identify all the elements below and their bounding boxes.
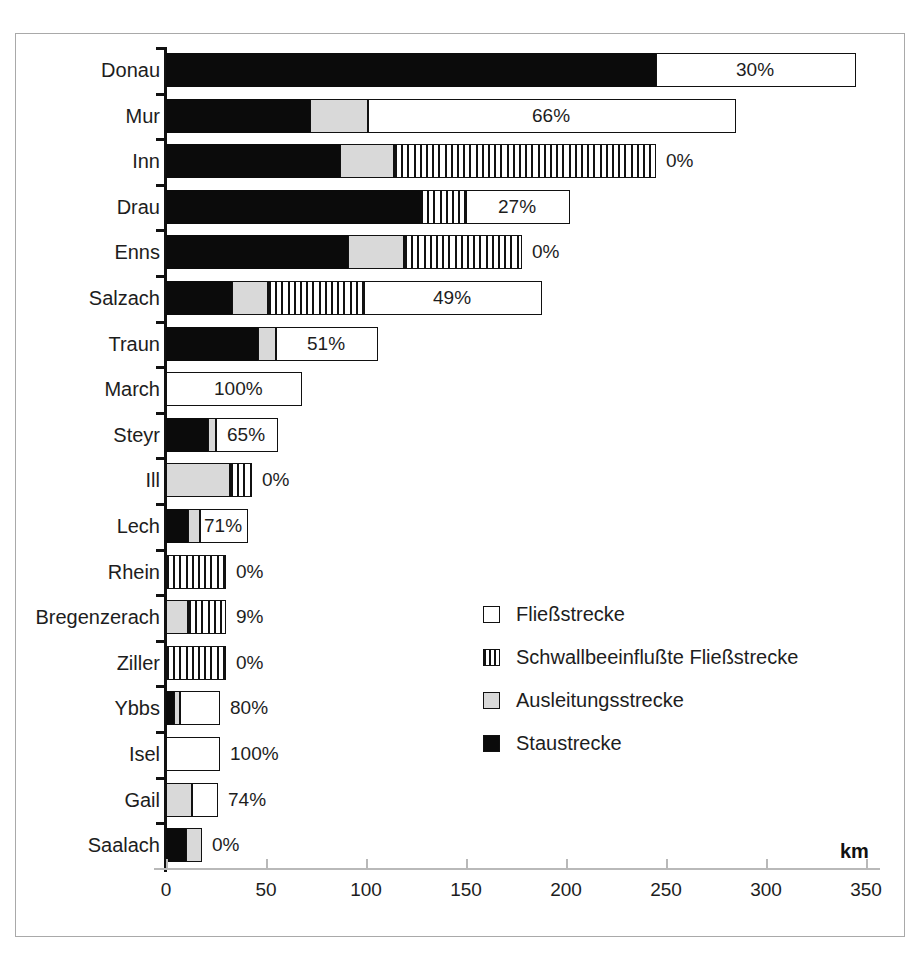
axis-tick-label: Bregenzerach bbox=[0, 607, 160, 627]
segment-staustrecke bbox=[166, 418, 208, 452]
legend-item-schwall: Schwallbeeinflußte Fließstrecke bbox=[483, 647, 798, 667]
axis-tick-label: Saalach bbox=[0, 835, 160, 855]
y-axis-tick bbox=[156, 640, 165, 643]
hatch-pattern bbox=[167, 556, 225, 588]
segment-fliessstrecke bbox=[166, 737, 220, 771]
grey-square-icon bbox=[483, 692, 500, 709]
y-axis-tick bbox=[156, 229, 165, 232]
y-axis-label-gail: Gail bbox=[0, 790, 160, 810]
x-axis-tick bbox=[766, 859, 768, 868]
bar-value-label: 74% bbox=[228, 790, 266, 809]
y-axis-label-saalach: Saalach bbox=[0, 835, 160, 855]
y-axis-label-salzach: Salzach bbox=[0, 288, 160, 308]
hatch-pattern bbox=[189, 601, 225, 633]
segment-ausleitungsstrecke bbox=[258, 327, 276, 361]
legend-label: Staustrecke bbox=[516, 733, 622, 753]
axis-tick-label: Inn bbox=[0, 151, 160, 171]
segment-staustrecke bbox=[166, 327, 258, 361]
legend-item-fliess: Fließstrecke bbox=[483, 604, 625, 624]
y-axis-tick bbox=[156, 47, 165, 50]
y-axis-label-rhein: Rhein bbox=[0, 562, 160, 582]
bar-row bbox=[166, 828, 202, 862]
bar-row bbox=[166, 691, 220, 725]
bar-row bbox=[166, 281, 542, 315]
x-axis-tick-label: 250 bbox=[626, 880, 706, 899]
y-axis-label-mur: Mur bbox=[0, 106, 160, 126]
legend-label: Fließstrecke bbox=[516, 604, 625, 624]
x-axis-tick bbox=[666, 859, 668, 868]
bar-value-label: 49% bbox=[433, 288, 471, 307]
y-axis-tick bbox=[156, 93, 165, 96]
y-axis-label-isel: Isel bbox=[0, 744, 160, 764]
y-axis-label-enns: Enns bbox=[0, 242, 160, 262]
y-axis-label-inn: Inn bbox=[0, 151, 160, 171]
bar-value-label: 0% bbox=[212, 835, 239, 854]
y-axis-tick bbox=[156, 731, 165, 734]
x-axis-tick bbox=[266, 859, 268, 868]
bar-value-label: 0% bbox=[666, 151, 693, 170]
striped-square-icon bbox=[483, 649, 500, 666]
legend-label: Schwallbeeinflußte Fließstrecke bbox=[516, 647, 798, 667]
x-axis-tick-label: 0 bbox=[126, 880, 206, 899]
x-axis-tick-label: 150 bbox=[426, 880, 506, 899]
y-axis-label-ill: Ill bbox=[0, 470, 160, 490]
segment-ausleitungsstrecke bbox=[166, 600, 188, 634]
axis-tick-label: Mur bbox=[0, 106, 160, 126]
segment-ausleitungsstrecke bbox=[348, 235, 404, 269]
bar-value-label: 80% bbox=[230, 698, 268, 717]
y-axis-tick bbox=[156, 777, 165, 780]
bar-value-label: 27% bbox=[498, 197, 536, 216]
segment-staustrecke bbox=[166, 190, 420, 224]
bar-row bbox=[166, 327, 378, 361]
x-axis-tick-label: 300 bbox=[726, 880, 806, 899]
segment-ausleitungsstrecke bbox=[186, 828, 202, 862]
bar-value-label: 100% bbox=[230, 744, 279, 763]
axis-tick-label: Ziller bbox=[0, 653, 160, 673]
bar-value-label: 0% bbox=[236, 653, 263, 672]
segment-ausleitungsstrecke bbox=[232, 281, 268, 315]
legend-item-ausl: Ausleitungsstrecke bbox=[483, 690, 684, 710]
bar-value-label: 65% bbox=[227, 425, 265, 444]
segment-ausleitungsstrecke bbox=[166, 783, 192, 817]
bar-value-label: 0% bbox=[532, 242, 559, 261]
legend-item-stau: Staustrecke bbox=[483, 733, 622, 753]
y-axis-label-ybbs: Ybbs bbox=[0, 698, 160, 718]
y-axis-tick bbox=[156, 366, 165, 369]
hatch-pattern bbox=[167, 647, 225, 679]
y-axis-label-march: March bbox=[0, 379, 160, 399]
x-axis-line bbox=[154, 868, 880, 870]
black-square-icon bbox=[483, 735, 500, 752]
segment-ausleitungsstrecke bbox=[166, 463, 230, 497]
y-axis-tick bbox=[156, 412, 165, 415]
bar-value-label: 0% bbox=[262, 470, 289, 489]
segment-schwallbeeinflusste bbox=[404, 235, 522, 269]
y-axis-tick bbox=[156, 822, 165, 825]
y-axis-tick bbox=[156, 685, 165, 688]
bar-value-label: 71% bbox=[204, 516, 242, 535]
segment-staustrecke bbox=[166, 144, 340, 178]
bar-value-label: 66% bbox=[532, 106, 570, 125]
axis-tick-label: Traun bbox=[0, 334, 160, 354]
y-axis-label-donau: Donau bbox=[0, 60, 160, 80]
y-axis-label-traun: Traun bbox=[0, 334, 160, 354]
y-axis-tick bbox=[156, 457, 165, 460]
y-axis-label-bregenzerach: Bregenzerach bbox=[0, 607, 160, 627]
y-axis-tick bbox=[156, 275, 165, 278]
bar-value-label: 9% bbox=[236, 607, 263, 626]
segment-fliessstrecke bbox=[180, 691, 220, 725]
bar-value-label: 51% bbox=[307, 334, 345, 353]
segment-schwallbeeinflusste bbox=[394, 144, 656, 178]
x-axis-tick bbox=[466, 859, 468, 868]
hatch-pattern bbox=[421, 191, 465, 223]
axis-tick-label: Lech bbox=[0, 516, 160, 536]
hatch-pattern bbox=[395, 145, 655, 177]
hatch-pattern bbox=[231, 464, 251, 496]
bar-row bbox=[166, 783, 218, 817]
segment-ausleitungsstrecke bbox=[188, 509, 200, 543]
axis-tick-label: Gail bbox=[0, 790, 160, 810]
y-axis-tick bbox=[156, 594, 165, 597]
hatch-pattern bbox=[269, 282, 363, 314]
y-axis-label-steyr: Steyr bbox=[0, 425, 160, 445]
y-axis-tick bbox=[156, 503, 165, 506]
chart-figure: Donau30%Mur66%Inn0%Drau27%Enns0%Salzach4… bbox=[0, 0, 923, 970]
